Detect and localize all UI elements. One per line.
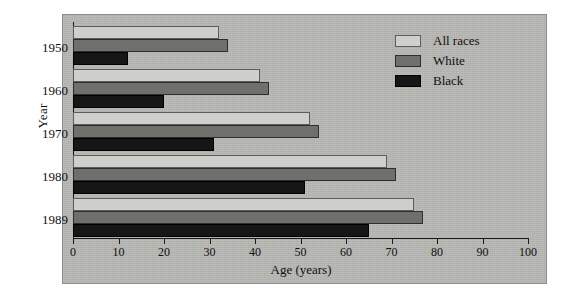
x-tick-label: 70 bbox=[372, 245, 412, 260]
y-tick-label-1950: 1950 bbox=[18, 40, 68, 56]
x-tick bbox=[437, 239, 438, 244]
x-tick-label: 100 bbox=[508, 245, 548, 260]
bar-1980-white bbox=[73, 168, 396, 181]
y-tick-label-1970: 1970 bbox=[18, 126, 68, 142]
x-tick bbox=[210, 239, 211, 244]
legend-label-all-races: All races bbox=[433, 33, 480, 49]
x-tick bbox=[164, 239, 165, 244]
bar-1970-white bbox=[73, 125, 319, 138]
x-tick-label: 20 bbox=[144, 245, 184, 260]
x-tick-label: 40 bbox=[235, 245, 275, 260]
legend-label-white: White bbox=[433, 53, 465, 69]
x-tick-label: 80 bbox=[417, 245, 457, 260]
legend-label-black: Black bbox=[433, 73, 463, 89]
bar-1960-black bbox=[73, 95, 164, 108]
bar-1970-black bbox=[73, 138, 214, 151]
legend-swatch-all-races bbox=[395, 35, 421, 47]
x-tick bbox=[528, 239, 529, 244]
bar-1970-all-races bbox=[73, 112, 310, 125]
bar-1980-all-races bbox=[73, 155, 387, 168]
bar-1960-all-races bbox=[73, 69, 260, 82]
y-tick-label-1960: 1960 bbox=[18, 83, 68, 99]
x-tick-label: 30 bbox=[190, 245, 230, 260]
y-tick-label-1989: 1989 bbox=[18, 212, 68, 228]
bar-1989-white bbox=[73, 211, 423, 224]
x-tick bbox=[392, 239, 393, 244]
bar-1989-black bbox=[73, 224, 369, 237]
x-tick bbox=[346, 239, 347, 244]
x-tick-label: 50 bbox=[281, 245, 321, 260]
legend-swatch-black bbox=[395, 75, 421, 87]
x-tick-label: 60 bbox=[326, 245, 366, 260]
y-tick-label-1980: 1980 bbox=[18, 169, 68, 185]
x-tick-label: 90 bbox=[463, 245, 503, 260]
bar-1950-white bbox=[73, 39, 228, 52]
bar-1960-white bbox=[73, 82, 269, 95]
x-tick-label: 10 bbox=[99, 245, 139, 260]
x-tick-label: 0 bbox=[53, 245, 93, 260]
bar-1980-black bbox=[73, 181, 305, 194]
x-tick bbox=[119, 239, 120, 244]
legend-swatch-white bbox=[395, 55, 421, 67]
bar-1950-all-races bbox=[73, 26, 219, 39]
x-tick bbox=[301, 239, 302, 244]
x-tick bbox=[255, 239, 256, 244]
bar-1989-all-races bbox=[73, 198, 414, 211]
x-tick bbox=[483, 239, 484, 244]
bar-1950-black bbox=[73, 52, 128, 65]
x-axis-title: Age (years) bbox=[73, 262, 529, 278]
chart-figure: Year 0102030405060708090100 195019601970… bbox=[0, 0, 565, 302]
x-tick bbox=[73, 239, 74, 244]
